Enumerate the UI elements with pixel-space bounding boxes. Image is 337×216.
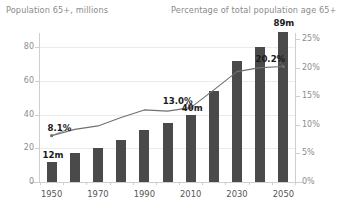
callout-line-1950: 8.1% bbox=[48, 123, 72, 133]
callout-bar-2050: 89m bbox=[273, 18, 294, 28]
callout-bar-1950: 12m bbox=[43, 150, 64, 160]
line-data-point bbox=[50, 134, 53, 137]
callout-line-2050: 20.2% bbox=[255, 54, 285, 64]
callout-line-2010: 13.0% bbox=[163, 96, 193, 106]
